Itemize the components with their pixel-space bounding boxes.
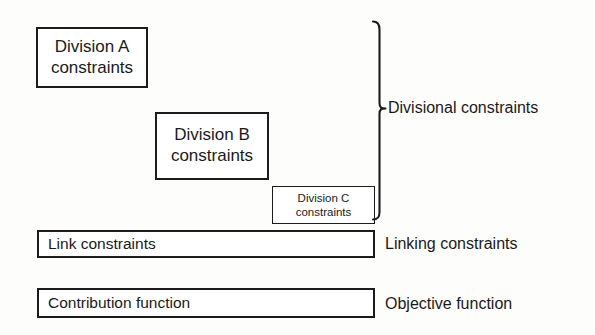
curly-brace-icon (370, 20, 392, 222)
box-link-label: Link constraints (48, 235, 156, 254)
box-division-a-label: Division A constraints (51, 37, 133, 78)
box-division-b-label: Division B constraints (171, 125, 253, 166)
box-division-b-constraints: Division B constraints (155, 112, 269, 180)
label-divisional-constraints: Divisional constraints (388, 100, 538, 116)
box-division-c-constraints: Division C constraints (272, 186, 375, 224)
box-link-constraints: Link constraints (37, 230, 375, 258)
box-contribution-function: Contribution function (37, 288, 375, 318)
curly-brace-divisional (370, 20, 392, 222)
label-objective-function: Objective function (385, 296, 512, 312)
label-linking-constraints: Linking constraints (385, 236, 518, 252)
box-division-a-constraints: Division A constraints (36, 27, 148, 88)
box-division-c-label: Division C constraints (296, 191, 352, 219)
diagram-canvas: Division A constraints Division B constr… (0, 0, 595, 335)
box-contribution-label: Contribution function (48, 294, 190, 313)
